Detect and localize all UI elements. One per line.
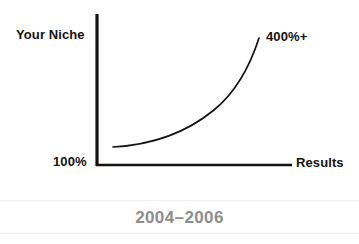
growth-curve xyxy=(113,38,259,147)
figure-caption: 2004–2006 xyxy=(0,209,359,228)
y-axis-origin-value: 100% xyxy=(53,155,87,168)
curve-endpoint-value: 400%+ xyxy=(266,30,307,43)
exponential-growth-chart: Your Niche 100% 400%+ Results 2004–2006 xyxy=(0,0,359,244)
y-axis-title: Your Niche xyxy=(16,28,85,41)
x-axis-title: Results xyxy=(296,156,344,169)
screenshot-root: Your Niche 100% 400%+ Results 2004–2006 xyxy=(0,0,359,244)
